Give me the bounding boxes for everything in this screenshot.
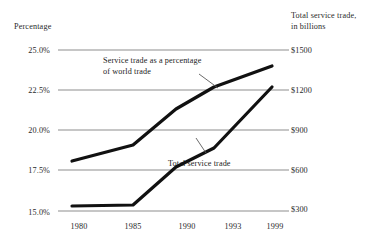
chart-container: Percentage Total service trade, in billi… <box>0 0 385 246</box>
leader-line-percentage <box>199 74 218 88</box>
chart-plot-area <box>0 0 385 246</box>
leader-line-total <box>196 138 206 153</box>
series-line-percentage <box>72 66 272 161</box>
series-line-total-service-trade <box>72 87 272 206</box>
gridlines <box>58 50 289 211</box>
